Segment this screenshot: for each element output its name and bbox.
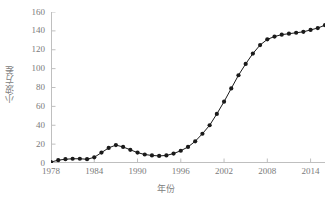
data-point: [85, 157, 89, 161]
line-series-svg: [51, 12, 325, 163]
data-point: [71, 157, 75, 161]
data-point: [308, 28, 312, 32]
data-point: [56, 158, 60, 162]
data-point: [171, 151, 175, 155]
data-point: [51, 160, 53, 163]
data-point: [135, 151, 139, 155]
data-point: [316, 26, 320, 30]
data-point: [265, 37, 269, 41]
data-point: [157, 154, 161, 158]
plot-area: [51, 12, 325, 163]
x-tick-label: 1990: [129, 166, 147, 176]
data-point: [208, 123, 212, 127]
data-point: [272, 34, 276, 38]
data-point: [251, 51, 255, 55]
data-point: [121, 145, 125, 149]
x-tick-label: 2002: [215, 166, 233, 176]
data-point: [143, 152, 147, 156]
y-tick-label: 140: [32, 26, 46, 35]
series-line: [51, 25, 325, 162]
y-tick-label: 40: [36, 121, 45, 130]
y-tick-label: 20: [36, 140, 45, 149]
data-point: [222, 100, 226, 104]
data-point: [258, 43, 262, 47]
data-point: [229, 86, 233, 90]
data-point: [294, 31, 298, 35]
x-axis-title: 年份: [0, 182, 332, 195]
data-point: [301, 30, 305, 34]
data-point: [128, 148, 132, 152]
x-axis-tick-labels: 1978198419901996200220082014: [0, 166, 332, 180]
y-tick-label: 60: [36, 102, 45, 111]
x-tick-label: 2014: [302, 166, 320, 176]
data-point: [287, 32, 291, 36]
x-tick-label: 1978: [42, 166, 60, 176]
y-axis-tick-labels: 020406080100120140160: [16, 0, 48, 180]
y-tick-label: 120: [32, 45, 46, 54]
data-point: [323, 23, 325, 27]
x-axis-ticks: [51, 159, 311, 163]
data-point: [63, 157, 67, 161]
data-point: [114, 143, 118, 147]
data-point: [236, 73, 240, 77]
data-point: [107, 146, 111, 150]
y-axis-title-label: 小波方差: [2, 65, 15, 103]
data-point: [92, 155, 96, 159]
data-point: [99, 151, 103, 155]
y-tick-label: 160: [32, 8, 46, 17]
data-point: [244, 62, 248, 66]
data-point: [150, 153, 154, 157]
data-point: [193, 139, 197, 143]
data-point: [179, 149, 183, 153]
data-point: [280, 33, 284, 37]
data-point: [164, 153, 168, 157]
y-tick-label: 100: [32, 64, 46, 73]
series-markers: [51, 23, 325, 163]
data-point: [78, 157, 82, 161]
y-axis-title: 小波方差: [0, 0, 16, 168]
data-point: [186, 145, 190, 149]
data-point: [215, 112, 219, 116]
data-point: [200, 132, 204, 136]
x-tick-label: 1984: [85, 166, 103, 176]
wavelet-variance-chart: 小波方差 020406080100120140160 1978198419901…: [0, 0, 332, 208]
x-tick-label: 1996: [172, 166, 190, 176]
y-axis-ticks: [52, 12, 56, 163]
x-tick-label: 2008: [258, 166, 276, 176]
y-tick-label: 80: [36, 83, 45, 92]
